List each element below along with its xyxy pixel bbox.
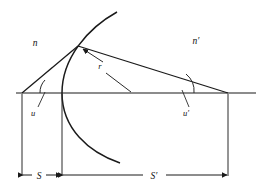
leader-line-r-to-center (106, 73, 131, 92)
label-medium-right: n′ (193, 36, 201, 46)
incident-ray (22, 46, 78, 93)
spherical-surface-arc (62, 12, 120, 163)
label-distance-S-prime: S′ (151, 171, 159, 181)
leader-line-u (38, 92, 45, 107)
angle-arc-u-prime (186, 74, 194, 93)
diagram-canvas: n n′ u u′ r S S′ (0, 0, 268, 190)
label-angle-u: u (31, 108, 35, 118)
refracted-ray-arrowhead (135, 64, 147, 68)
incident-ray-arrowhead (44, 67, 52, 74)
label-medium-left: n (33, 38, 38, 48)
label-distance-S: S (37, 171, 42, 181)
optics-refraction-diagram: n n′ u u′ r S S′ (0, 0, 268, 190)
label-radius-r: r (98, 61, 102, 71)
angle-arc-u (40, 80, 45, 93)
label-angle-u-prime: u′ (183, 108, 189, 118)
